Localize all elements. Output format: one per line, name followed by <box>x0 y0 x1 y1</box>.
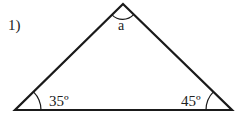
right-angle-label: 45º <box>181 93 201 109</box>
apex-angle-label: a <box>118 18 125 33</box>
problem-number: 1) <box>8 17 21 34</box>
left-angle-arc <box>34 92 42 110</box>
right-angle-arc <box>206 92 214 110</box>
triangle-diagram: 1) a 35º 45º <box>0 0 241 118</box>
left-angle-label: 35º <box>49 93 69 109</box>
